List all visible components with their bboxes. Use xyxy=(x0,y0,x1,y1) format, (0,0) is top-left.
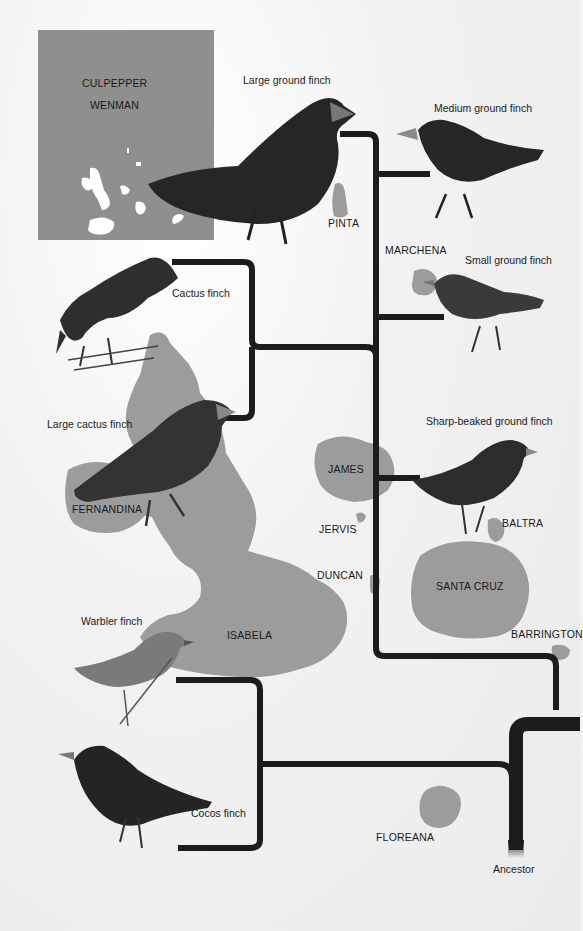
island-label-baltra: BALTRA xyxy=(502,518,543,529)
warbler-finch-icon xyxy=(74,632,194,726)
finch-label-large-ground: Large ground finch xyxy=(243,75,331,86)
small-ground-finch-icon xyxy=(422,274,544,352)
island-label-james: JAMES xyxy=(328,464,364,475)
finch-label-cactus: Cactus finch xyxy=(172,288,230,299)
root-label-ancestor: Ancestor xyxy=(493,864,534,875)
island-label-jervis: JERVIS xyxy=(319,524,357,535)
finch-label-sharp-beaked-ground: Sharp-beaked ground finch xyxy=(426,416,553,427)
finch-label-warbler: Warbler finch xyxy=(81,616,142,627)
island-label-santa-cruz: SANTA CRUZ xyxy=(436,581,504,592)
island-label-duncan: DUNCAN xyxy=(317,570,363,581)
island-label-isabela: ISABELA xyxy=(227,630,272,641)
cactus-finch-icon xyxy=(56,257,178,370)
island-label-marchena: MARCHENA xyxy=(385,245,447,256)
finch-label-medium-ground: Medium ground finch xyxy=(434,103,532,114)
island-label-fernandina: FERNANDINA xyxy=(72,504,142,515)
medium-ground-finch-icon xyxy=(396,120,544,218)
cocos-finch-icon xyxy=(58,746,212,848)
island-label-pinta: PINTA xyxy=(328,218,359,229)
island-label-barrington: BARRINGTON xyxy=(511,629,583,640)
large-ground-finch-icon xyxy=(148,98,356,244)
island-label-floreana: FLOREANA xyxy=(376,832,434,843)
finch-label-cocos: Cocos finch xyxy=(191,808,246,819)
finch-label-large-cactus: Large cactus finch xyxy=(47,419,132,430)
finch-label-small-ground: Small ground finch xyxy=(465,255,552,266)
